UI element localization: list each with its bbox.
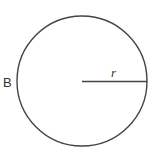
circle-label: B <box>3 75 12 90</box>
circle-diagram: B r <box>0 0 158 155</box>
radius-label: r <box>111 65 117 80</box>
